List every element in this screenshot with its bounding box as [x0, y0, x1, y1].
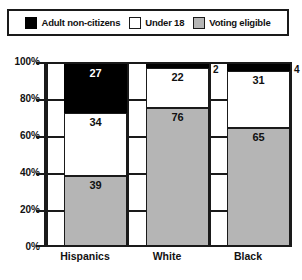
legend-label: Adult non-citizens	[41, 17, 120, 28]
y-tick-mark	[36, 210, 44, 212]
bar-segment-label: 27	[89, 68, 101, 79]
y-tick-mark	[36, 173, 44, 175]
x-label-white: White	[126, 250, 208, 262]
y-axis: 100% 80% 60% 40% 20% 0%	[0, 62, 40, 247]
bar-hispanics[interactable]: 39 34 27	[64, 64, 127, 247]
y-tick-mark	[36, 99, 44, 101]
y-tick-mark	[36, 62, 44, 64]
gridline-vertical	[46, 62, 48, 247]
bar-segment-adult-non-citizens[interactable]	[146, 64, 209, 68]
bar-segment-label-outside: 4	[294, 65, 300, 75]
bar-segment-adult-non-citizens[interactable]: 27	[64, 64, 127, 113]
y-tick-label: 80%	[6, 93, 40, 104]
y-tick-label: 0%	[6, 241, 40, 252]
y-tick-label: 20%	[6, 204, 40, 215]
chart-legend: Adult non-citizens Under 18 Voting eligi…	[7, 9, 289, 36]
x-axis-line	[36, 245, 290, 247]
plot-area: 39 34 27 76 22 2 65 31	[44, 62, 290, 247]
bar-segment-label-outside: 2	[213, 65, 219, 75]
gridline-vertical	[209, 62, 211, 247]
white-swatch-icon	[129, 17, 141, 29]
bar-segment-label: 22	[171, 72, 183, 83]
bar-black[interactable]: 65 31	[227, 64, 290, 247]
bar-segment-voting-eligible[interactable]: 76	[146, 108, 209, 247]
bar-segment-label: 39	[89, 180, 101, 191]
legend-item-adult-non-citizens: Adult non-citizens	[25, 17, 120, 29]
gridline-vertical	[127, 62, 129, 247]
black-swatch-icon	[25, 17, 37, 29]
legend-label: Under 18	[145, 17, 184, 28]
bar-segment-voting-eligible[interactable]: 65	[227, 128, 290, 247]
bar-segment-label: 76	[171, 112, 183, 123]
legend-item-voting-eligible: Voting eligible	[193, 17, 270, 29]
x-label-hispanics: Hispanics	[44, 250, 126, 262]
x-label-black: Black	[207, 250, 289, 262]
bar-white[interactable]: 76 22	[146, 64, 209, 247]
bar-segment-adult-non-citizens[interactable]	[227, 64, 290, 71]
bar-segment-under-18[interactable]: 22	[146, 68, 209, 108]
y-tick-label: 40%	[6, 167, 40, 178]
bar-segment-under-18[interactable]: 34	[64, 113, 127, 175]
legend-item-under-18: Under 18	[129, 17, 184, 29]
bar-segment-label: 65	[252, 132, 264, 143]
x-axis-labels: Hispanics White Black	[44, 250, 290, 270]
y-tick-label: 60%	[6, 130, 40, 141]
y-tick-mark	[36, 136, 44, 138]
bar-segment-label: 31	[252, 75, 264, 86]
legend-label: Voting eligible	[209, 17, 270, 28]
gridline-vertical	[290, 62, 292, 247]
gray-swatch-icon	[193, 17, 205, 29]
y-tick-label: 100%	[6, 56, 40, 67]
bar-segment-under-18[interactable]: 31	[227, 71, 290, 128]
bar-segment-label: 34	[89, 117, 101, 128]
bar-segment-voting-eligible[interactable]: 39	[64, 176, 127, 247]
